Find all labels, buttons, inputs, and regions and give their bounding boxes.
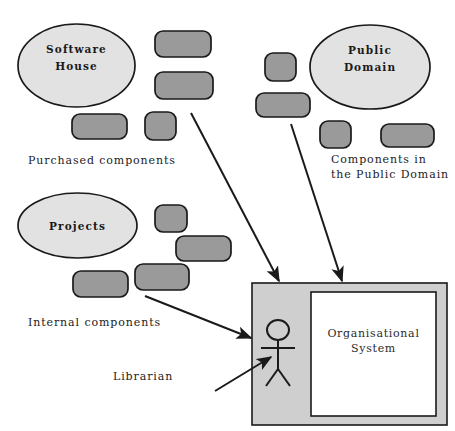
internal-components-caption: Internal components [28,316,161,329]
public-domain-label-line1: Public [348,44,392,56]
system-label-line2: System [351,342,396,355]
public-domain-caption-line1: Components in [331,153,427,166]
component-chip[interactable] [145,112,176,140]
librarian-caption: Librarian [113,370,173,383]
component-chip[interactable] [155,205,187,232]
component-chip[interactable] [256,93,310,117]
component-chip[interactable] [381,124,434,147]
public-domain-group: Public Domain Components in the Public D… [256,25,449,181]
component-chip[interactable] [72,114,127,139]
component-chip[interactable] [176,236,231,261]
diagram-canvas: Software House Purchased components Publ… [0,0,455,431]
component-chip[interactable] [155,31,211,57]
projects-group: Projects Internal components [18,193,231,329]
component-chip[interactable] [155,72,213,99]
organisational-system-group: Organisational System Librarian [113,283,447,425]
component-chip[interactable] [265,53,296,81]
software-house-group: Software House Purchased components [18,24,213,167]
component-chip[interactable] [135,264,189,290]
component-chip[interactable] [320,121,351,148]
software-house-label-line1: Software [46,43,107,55]
public-domain-label-line2: Domain [344,61,396,73]
component-chip[interactable] [73,271,128,297]
purchased-components-caption: Purchased components [28,154,176,167]
component-sourcing-diagram: Software House Purchased components Publ… [0,0,455,431]
software-house-label-line2: House [55,60,98,72]
system-label-line1: Organisational [327,327,419,340]
public-domain-caption-line2: the Public Domain [331,168,449,181]
projects-label-line1: Projects [49,220,106,232]
